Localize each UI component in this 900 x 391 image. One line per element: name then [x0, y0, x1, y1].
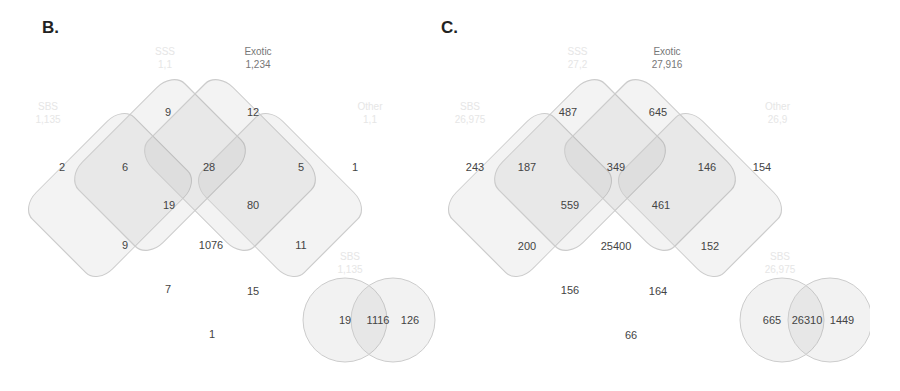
region-count: 487 [559, 106, 577, 118]
pair-overlap-count: 26310 [792, 314, 823, 326]
panel-letter: B. [42, 18, 59, 38]
pair-label-left: SBS26,975 [755, 250, 805, 276]
region-count: 9 [122, 239, 128, 251]
panel-b: B. Exotic1,234 SBS1,135 SSS1,1 Other1,1 … [0, 0, 450, 391]
region-count: 25400 [601, 240, 632, 252]
region-count: 1 [352, 161, 358, 173]
region-count: 200 [518, 240, 536, 252]
region-count: 559 [561, 199, 579, 211]
region-count: 66 [625, 329, 637, 341]
region-count: 12 [247, 106, 259, 118]
region-count: 187 [518, 161, 536, 173]
pair-label-left: SBS1,135 [330, 250, 370, 276]
pair-right-count: 126 [401, 314, 419, 326]
set-label-sss: SSS27,2 [550, 45, 605, 71]
region-count: 154 [753, 161, 771, 173]
set-label-sss: SSS1,1 [140, 45, 190, 71]
region-count: 156 [561, 284, 579, 296]
panel-letter: C. [441, 18, 458, 38]
region-count: 9 [165, 106, 171, 118]
pair-right-count: 1449 [830, 314, 854, 326]
panel-c: C. Exotic27,916 SBS26,975 SSS27,2 Other2… [420, 0, 870, 391]
region-count: 7 [165, 283, 171, 295]
region-count: 15 [247, 285, 259, 297]
region-count: 28 [203, 161, 215, 173]
region-count: 152 [701, 240, 719, 252]
region-count: 5 [298, 161, 304, 173]
region-count: 461 [652, 199, 670, 211]
region-count: 146 [698, 161, 716, 173]
set-label-exotic: Exotic27,916 [632, 45, 702, 71]
region-count: 349 [607, 161, 625, 173]
venn-diagram-b [0, 0, 450, 391]
region-count: 11 [295, 239, 306, 251]
set-label-other: Other1,1 [345, 100, 395, 126]
region-count: 19 [163, 199, 175, 211]
region-count: 80 [247, 199, 259, 211]
set-label-sbs: SBS26,975 [445, 100, 495, 126]
region-count: 2 [59, 161, 65, 173]
pair-left-count: 665 [763, 314, 781, 326]
region-count: 1 [209, 328, 215, 340]
pair-left-count: 19 [339, 314, 351, 326]
region-count: 243 [466, 161, 484, 173]
set-label-other: Other26,9 [750, 100, 805, 126]
set-label-exotic: Exotic1,234 [228, 45, 288, 71]
region-count: 164 [649, 285, 667, 297]
region-count: 645 [649, 106, 667, 118]
region-count: 1076 [199, 239, 223, 251]
pair-overlap-count: 1116 [367, 314, 390, 326]
set-label-sbs: SBS1,135 [28, 100, 68, 126]
region-count: 6 [122, 161, 128, 173]
